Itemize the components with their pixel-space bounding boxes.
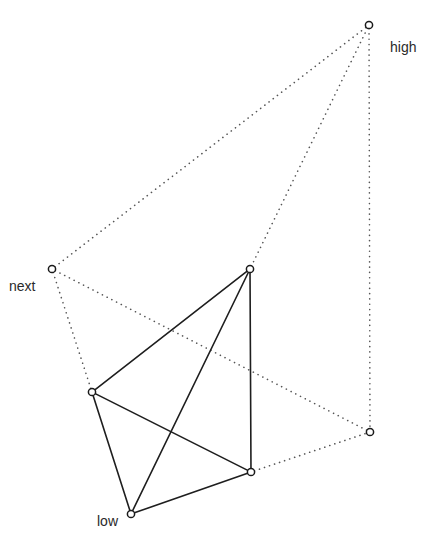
node-low [127,510,134,517]
nodes [48,21,373,517]
node-next [48,265,55,272]
node-high [365,21,372,28]
dotted-edges [53,27,370,471]
edge-top_mid-bottom_right [250,273,251,469]
edge-high-top_mid [252,28,368,266]
solid-edges [93,271,251,513]
edge-top_mid-low [133,272,249,511]
label-low: low [97,513,119,529]
edge-left-low [93,395,130,510]
edge-high-right [369,29,370,429]
node-labels: high next low [9,39,416,529]
node-left [88,388,95,395]
graph-diagram: high next low [0,0,434,533]
edge-top_mid-left [95,271,247,390]
edge-next-high [55,27,366,267]
label-next: next [9,278,36,294]
edge-bottom_right-right [254,433,366,471]
node-right [366,428,373,435]
edge-low-bottom_right [134,473,247,513]
edge-next-left [53,272,91,388]
node-top_mid [246,265,253,272]
label-high: high [390,39,416,55]
node-bottom_right [247,468,254,475]
edge-left-bottom_right [95,394,248,471]
